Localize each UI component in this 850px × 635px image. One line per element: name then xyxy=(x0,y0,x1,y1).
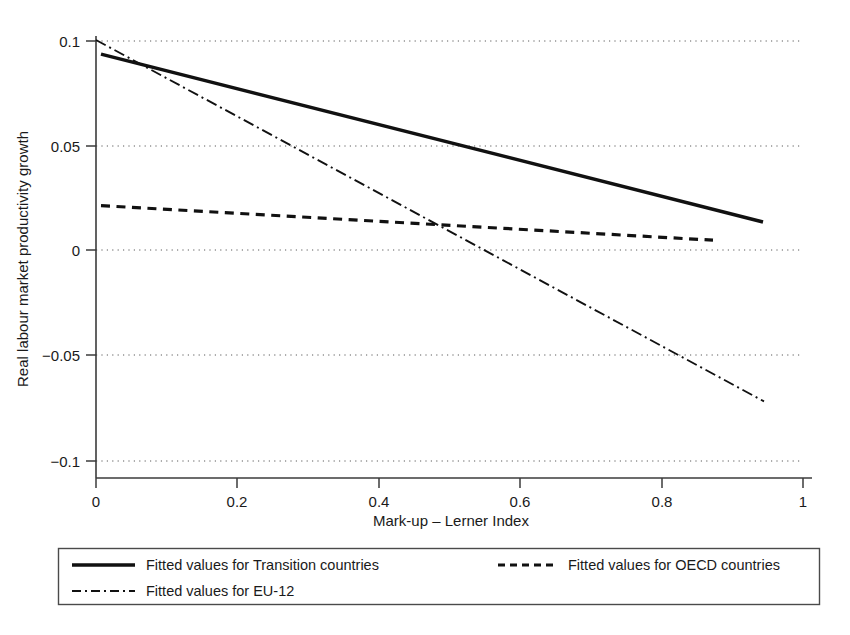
y-tick-label-1: 0.05 xyxy=(51,138,80,155)
x-tick-label-0: 0 xyxy=(92,493,100,510)
x-tick-label-1: 0.2 xyxy=(227,493,248,510)
y-axis-title: Real labour market productivity growth xyxy=(14,131,31,387)
y-tick-label-4: −0.1 xyxy=(50,453,80,470)
x-tick-label-3: 0.6 xyxy=(510,493,531,510)
x-tick-label-4: 0.8 xyxy=(652,493,673,510)
legend-label-transition-countries: Fitted values for Transition countries xyxy=(146,557,379,573)
x-tick-label-2: 0.4 xyxy=(369,493,390,510)
productivity-markup-chart: 0.1 0.05 0 −0.05 −0.1 0 0.2 0.4 0.6 0.8 … xyxy=(0,0,850,635)
legend: Fitted values for Transition countries F… xyxy=(59,549,820,605)
chart-background xyxy=(0,0,850,635)
x-tick-label-5: 1 xyxy=(799,493,807,510)
legend-label-eu-12: Fitted values for EU-12 xyxy=(146,583,294,599)
x-axis-title: Mark-up – Lerner Index xyxy=(373,512,529,529)
y-tick-label-3: −0.05 xyxy=(42,347,80,364)
y-tick-label-0: 0.1 xyxy=(59,33,80,50)
y-tick-label-2: 0 xyxy=(72,242,80,259)
legend-label-oecd-countries: Fitted values for OECD countries xyxy=(568,557,780,573)
